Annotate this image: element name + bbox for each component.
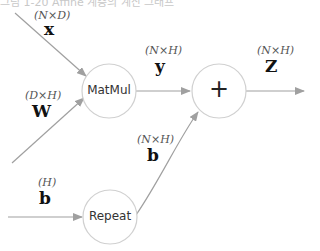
b-in-var: b: [39, 188, 51, 208]
b-rep-var: b: [147, 145, 159, 165]
z-var: Z: [265, 56, 277, 76]
add-label: +: [192, 75, 246, 103]
repeat-label: Repeat: [83, 209, 137, 223]
edge-b-rep: [136, 112, 198, 215]
w-var: W: [32, 101, 51, 121]
y-var: y: [155, 56, 165, 76]
x-var: x: [44, 19, 54, 39]
matmul-label: MatMul: [82, 83, 136, 97]
